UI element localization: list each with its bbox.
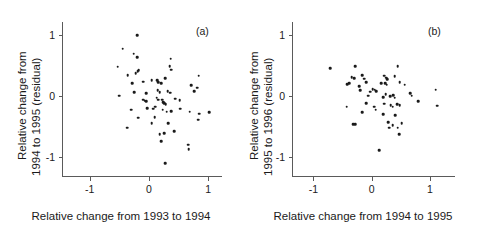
data-point bbox=[160, 140, 163, 143]
x-tick-label: 1 bbox=[427, 183, 433, 195]
y-tick bbox=[59, 157, 63, 158]
yaxis-title-a-line1: Relative change from bbox=[16, 51, 28, 160]
data-point bbox=[161, 109, 164, 112]
data-point bbox=[170, 110, 173, 113]
data-point bbox=[383, 102, 386, 105]
data-point bbox=[122, 48, 125, 51]
data-point bbox=[169, 91, 172, 94]
data-point bbox=[410, 95, 413, 98]
x-tick bbox=[208, 177, 209, 181]
data-point bbox=[396, 65, 399, 68]
data-point bbox=[170, 57, 173, 60]
data-point bbox=[394, 114, 397, 117]
data-point bbox=[173, 130, 176, 133]
data-point bbox=[187, 143, 190, 146]
data-point bbox=[170, 68, 173, 71]
scatter-figure: -101-101 (a) Relative change from 1993 t… bbox=[0, 0, 485, 226]
data-point bbox=[167, 122, 170, 125]
panel-label-b: (b) bbox=[428, 25, 441, 37]
data-point bbox=[361, 111, 364, 114]
y-tick bbox=[59, 35, 63, 36]
data-point bbox=[136, 56, 139, 59]
data-point bbox=[396, 126, 399, 129]
data-point bbox=[398, 104, 401, 107]
yaxis-title-a-line2: 1994 to 1995 (residual) bbox=[30, 58, 42, 176]
data-point bbox=[193, 90, 196, 93]
data-point bbox=[329, 67, 332, 70]
data-point bbox=[189, 110, 192, 113]
data-point bbox=[164, 103, 167, 106]
data-point bbox=[160, 82, 163, 85]
panel-b: -101-101 (b) Relative change from 1994 t… bbox=[242, 0, 484, 226]
x-tick bbox=[90, 177, 91, 181]
data-point bbox=[178, 99, 181, 102]
data-point bbox=[378, 149, 381, 152]
data-point bbox=[158, 133, 161, 136]
y-tick bbox=[59, 96, 63, 97]
data-point bbox=[382, 113, 385, 116]
data-point bbox=[354, 65, 357, 68]
data-point bbox=[394, 96, 397, 99]
data-point bbox=[158, 91, 161, 94]
data-point bbox=[146, 107, 149, 110]
data-point bbox=[116, 65, 119, 68]
data-point bbox=[138, 69, 141, 72]
data-point bbox=[164, 77, 167, 80]
y-tick-label: 1 bbox=[39, 29, 55, 41]
x-tick-label: 0 bbox=[146, 183, 152, 195]
panel-a: -101-101 (a) Relative change from 1993 t… bbox=[0, 0, 242, 226]
x-tick bbox=[313, 177, 314, 181]
data-point bbox=[133, 91, 136, 94]
plot-area-b: -101-101 bbox=[292, 22, 455, 177]
data-point bbox=[187, 148, 190, 151]
data-point bbox=[163, 132, 166, 135]
data-point bbox=[130, 109, 133, 112]
data-point bbox=[168, 65, 171, 68]
data-point bbox=[164, 162, 167, 165]
panel-label-a: (a) bbox=[196, 25, 209, 37]
data-point bbox=[151, 79, 154, 82]
data-point bbox=[363, 77, 366, 80]
data-point bbox=[375, 90, 378, 93]
data-point bbox=[142, 81, 145, 84]
y-tick-label: 1 bbox=[269, 29, 285, 41]
data-point bbox=[417, 100, 420, 103]
data-point bbox=[145, 100, 148, 103]
xaxis-title-a: Relative change from 1993 to 1994 bbox=[0, 210, 242, 222]
data-point bbox=[145, 92, 148, 95]
data-point bbox=[154, 106, 157, 109]
yaxis-title-b-line2: 1995 to 1996 (residual) bbox=[262, 58, 274, 176]
data-point bbox=[359, 89, 362, 92]
data-point bbox=[385, 84, 388, 87]
y-tick bbox=[289, 96, 293, 97]
data-point bbox=[436, 104, 439, 107]
data-point bbox=[403, 84, 406, 87]
x-tick-label: 0 bbox=[369, 183, 375, 195]
data-point bbox=[118, 95, 121, 98]
data-point bbox=[374, 109, 377, 112]
data-point bbox=[198, 112, 201, 115]
data-point bbox=[208, 111, 211, 114]
data-point bbox=[391, 124, 394, 127]
yaxis-title-b-line1: Relative change from bbox=[248, 51, 260, 160]
xaxis-title-b: Relative change from 1994 to 1995 bbox=[242, 210, 484, 222]
data-point bbox=[367, 95, 370, 98]
data-point bbox=[154, 116, 157, 119]
data-point bbox=[386, 78, 389, 81]
x-tick-label: -1 bbox=[85, 183, 94, 195]
data-point bbox=[382, 96, 385, 99]
data-point bbox=[135, 72, 138, 75]
data-point bbox=[365, 81, 368, 84]
data-point bbox=[365, 102, 368, 105]
data-point bbox=[380, 82, 383, 85]
data-point bbox=[126, 126, 129, 129]
data-point bbox=[388, 126, 391, 129]
data-point bbox=[174, 98, 177, 101]
x-tick bbox=[430, 177, 431, 181]
data-point bbox=[345, 106, 348, 109]
data-point bbox=[137, 117, 140, 120]
data-point bbox=[132, 52, 135, 55]
data-point bbox=[136, 34, 139, 37]
data-point bbox=[387, 121, 390, 124]
data-point bbox=[391, 106, 394, 109]
